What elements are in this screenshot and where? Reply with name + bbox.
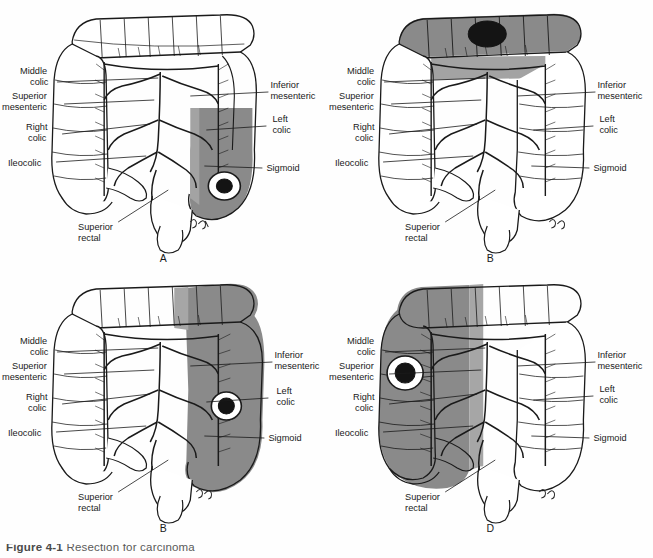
label-superior-rectal-d: Superior [405,492,440,502]
ascending-colon-b [378,44,435,210]
label-left-colic-d-2: colic [599,395,618,405]
panel-letter-a: A [160,252,167,264]
rectum-b [484,226,510,253]
label-sigmoid-b: Sigmoid [593,163,626,173]
figure-caption-label: Figure 4-1 [6,544,63,553]
transverse-colon-a [72,15,254,58]
ileum-b [433,168,473,201]
label-inferior-mesenteric-b-2: mesenteric [597,91,642,101]
label-middle-colic-d-2: colic [357,347,376,357]
label-right-colic-d: Right [353,392,375,402]
panel-letter-d: D [486,522,494,534]
label-left-colic-c-2: colic [276,397,295,407]
label-superior-rectal-d-2: rectal [405,503,427,513]
figure-caption: Figure 4-1 Resection for carcinoma [6,544,195,553]
figure-caption-body: Resection for carcinoma [66,544,195,553]
label-right-colic-c-2: colic [28,403,47,413]
label-right-colic-a: Right [26,122,48,132]
label-right-colic-b: Right [353,122,375,132]
label-superior-rectal-b-2: rectal [405,233,427,243]
label-sigmoid-d: Sigmoid [593,433,626,443]
label-superior-mesenteric-c-2: mesenteric [2,372,47,382]
panel-letter-c: B [160,522,167,534]
panel-grid: Middle colic Superior mesenteric Right c… [0,0,653,540]
resection-shading-d [378,285,468,489]
label-inferior-mesenteric-d-2: mesenteric [597,361,642,371]
label-sigmoid-c: Sigmoid [268,433,301,443]
label-inferior-mesenteric-c-2: mesenteric [274,361,319,371]
label-superior-rectal-c: Superior [78,492,113,502]
label-superior-mesenteric-a: Superior [12,91,47,101]
label-middle-colic-b: Middle [347,66,374,76]
tumor-mass-c [211,392,241,420]
artist-signature-c [196,490,211,500]
label-middle-colic-b-2: colic [357,77,376,87]
label-inferior-mesenteric-c: Inferior [274,350,303,360]
label-right-colic-a-2: colic [28,133,47,143]
label-middle-colic-c-2: colic [30,347,49,357]
label-ileocolic-c: Ileocolic [8,428,42,438]
label-sigmoid-a: Sigmoid [266,163,299,173]
label-superior-mesenteric-d-2: mesenteric [329,372,374,382]
artist-signature-b [549,220,564,230]
panel-d: Middle colic Superior mesenteric Right c… [327,270,653,540]
label-superior-rectal-a-2: rectal [78,233,100,243]
transverse-colon-c [72,285,254,328]
label-right-colic-d-2: colic [355,403,374,413]
label-ileocolic-b: Ileocolic [335,158,369,168]
panel-b: Middle colic Superior mesenteric Right c… [327,0,653,270]
ileum-a [106,168,146,201]
label-left-colic-a: Left [272,114,288,124]
label-left-colic-b-2: colic [599,125,618,135]
tumor-mass-a [208,172,240,200]
label-inferior-mesenteric-b: Inferior [597,80,626,90]
label-middle-colic-c: Middle [20,336,47,346]
panel-a: Middle colic Superior mesenteric Right c… [0,0,327,270]
label-left-colic-a-2: colic [272,125,291,135]
ascending-colon-a [52,44,109,210]
label-right-colic-b-2: colic [355,133,374,143]
panel-letter-b: B [486,252,493,264]
figure-sheet: Middle colic Superior mesenteric Right c… [0,0,653,558]
label-superior-mesenteric-a-2: mesenteric [2,102,47,112]
label-left-colic-d: Left [599,384,615,394]
label-inferior-mesenteric-d: Inferior [597,350,626,360]
label-middle-colic-d: Middle [347,336,374,346]
label-inferior-mesenteric-a-2: mesenteric [270,91,315,101]
resection-shading-a-soft [190,108,199,205]
label-superior-mesenteric-b: Superior [339,91,374,101]
label-superior-mesenteric-c: Superior [12,361,47,371]
rectum-a [157,226,183,253]
rectum-d [484,496,510,523]
label-middle-colic-a-2: colic [30,77,49,87]
panel-c: Middle colic Superior mesenteric Right c… [0,270,327,540]
tumor-mass-b [468,21,506,47]
label-left-colic-b: Left [599,114,615,124]
label-right-colic-c: Right [26,392,48,402]
label-superior-rectal-c-2: rectal [78,503,100,513]
label-ileocolic-d: Ileocolic [335,428,369,438]
label-ileocolic-a: Ileocolic [8,158,42,168]
label-inferior-mesenteric-a: Inferior [270,80,299,90]
rectum-c [157,496,183,523]
artist-signature-a [190,220,208,230]
label-left-colic-c: Left [276,386,292,396]
ileum-c [106,438,146,471]
label-superior-rectal-b: Superior [405,222,440,232]
label-superior-mesenteric-d: Superior [339,361,374,371]
label-superior-rectal-a: Superior [78,222,113,232]
label-middle-colic-a: Middle [20,66,47,76]
figure-caption-strip: Figure 4-1 Resection for carcinoma [0,544,653,558]
label-superior-mesenteric-b-2: mesenteric [329,102,374,112]
ascending-colon-c [52,314,109,480]
